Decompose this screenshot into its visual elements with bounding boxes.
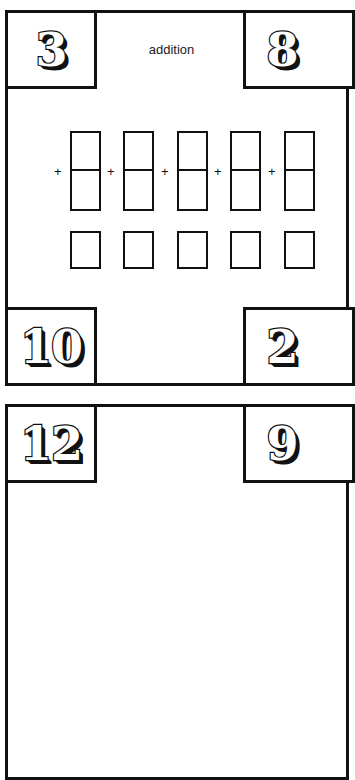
worksheet-card: 3 8 10 2 addition + +	[5, 10, 349, 386]
addend-cell-top[interactable]	[72, 133, 99, 171]
addend-box[interactable]	[284, 131, 315, 211]
addend-cell-bottom[interactable]	[286, 171, 313, 209]
addend-cell-bottom[interactable]	[179, 171, 206, 209]
answer-box[interactable]	[123, 231, 154, 269]
corner-box-bottom-right: 2	[243, 307, 355, 386]
answer-box[interactable]	[70, 231, 101, 269]
next-corner-number-top-right: 9	[266, 421, 297, 467]
next-worksheet-card: 12 9	[5, 404, 349, 780]
addend-cell-bottom[interactable]	[232, 171, 259, 209]
addend-cell-top[interactable]	[179, 133, 206, 171]
addend-cell-top[interactable]	[125, 133, 152, 171]
problem-column: +	[230, 131, 261, 269]
addend-cell-bottom[interactable]	[72, 171, 99, 209]
addend-box[interactable]	[70, 131, 101, 211]
plus-icon: +	[54, 165, 62, 178]
problem-column: +	[70, 131, 101, 269]
plus-icon: +	[107, 165, 115, 178]
corner-number-bottom-left: 10	[20, 324, 82, 370]
addend-cell-top[interactable]	[232, 133, 259, 171]
answer-box[interactable]	[230, 231, 261, 269]
next-corner-box-top-right: 9	[243, 404, 355, 483]
plus-icon: +	[214, 165, 222, 178]
answer-box[interactable]	[177, 231, 208, 269]
problem-column: +	[177, 131, 208, 269]
problems-area: + + +	[8, 89, 346, 309]
problem-column: +	[123, 131, 154, 269]
addend-box[interactable]	[230, 131, 261, 211]
corner-box-top-right: 8	[243, 10, 355, 89]
corner-number-top-left: 3	[35, 27, 66, 73]
addend-cell-top[interactable]	[286, 133, 313, 171]
addend-box[interactable]	[123, 131, 154, 211]
worksheet-title: addition	[100, 10, 243, 89]
plus-icon: +	[268, 165, 276, 178]
corner-number-top-right: 8	[266, 27, 297, 73]
corner-number-bottom-right: 2	[266, 324, 297, 370]
next-corner-box-top-left: 12	[5, 404, 97, 483]
corner-box-bottom-left: 10	[5, 307, 97, 386]
corner-box-top-left: 3	[5, 10, 97, 89]
addend-cell-bottom[interactable]	[125, 171, 152, 209]
answer-box[interactable]	[284, 231, 315, 269]
addend-box[interactable]	[177, 131, 208, 211]
next-corner-number-top-left: 12	[20, 421, 82, 467]
plus-icon: +	[161, 165, 169, 178]
problem-column: +	[284, 131, 315, 269]
